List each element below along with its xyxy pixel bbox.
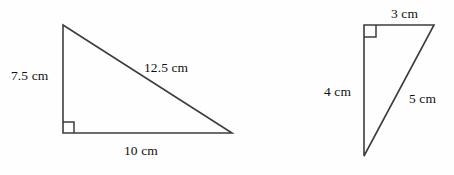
right-triangle-hypotenuse-label: 5 cm [409, 92, 436, 106]
left-triangle-hypotenuse-label: 12.5 cm [144, 61, 188, 75]
right-triangle-right-angle-icon [364, 25, 376, 37]
left-triangle-outline [63, 25, 232, 133]
right-triangle-vertical-leg-label: 4 cm [324, 85, 351, 99]
right-triangle-horizontal-leg-label: 3 cm [391, 7, 418, 21]
left-triangle [63, 25, 232, 133]
triangles-canvas [0, 0, 454, 175]
left-triangle-vertical-leg-label: 7.5 cm [11, 69, 48, 83]
left-triangle-right-angle-icon [63, 122, 74, 133]
left-triangle-horizontal-leg-label: 10 cm [124, 144, 158, 158]
geometry-figure: 7.5 cm 12.5 cm 10 cm 3 cm 4 cm 5 cm [0, 0, 454, 175]
